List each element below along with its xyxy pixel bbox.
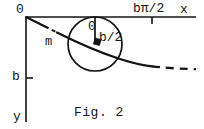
circle-radius-label: b/2 bbox=[99, 31, 122, 44]
cycloid-curve-lead bbox=[26, 17, 45, 27]
y-tick-label: b bbox=[12, 70, 20, 83]
origin-label: 0 bbox=[16, 3, 24, 16]
x-axis-label: x bbox=[180, 3, 188, 16]
figure-caption: Fig. 2 bbox=[74, 106, 124, 119]
x-tick-label: bπ/2 bbox=[133, 2, 164, 15]
circle-center-label: 0 bbox=[88, 20, 96, 33]
figure-2-container: 0 bπ/2 x 0 b/2 m b y Fig. 2 bbox=[0, 0, 204, 129]
point-m-label: m bbox=[45, 36, 52, 48]
cycloid-curve-gap bbox=[45, 27, 57, 33]
y-axis-label: y bbox=[13, 110, 21, 123]
cycloid-curve-dashed-tail bbox=[152, 66, 196, 69]
